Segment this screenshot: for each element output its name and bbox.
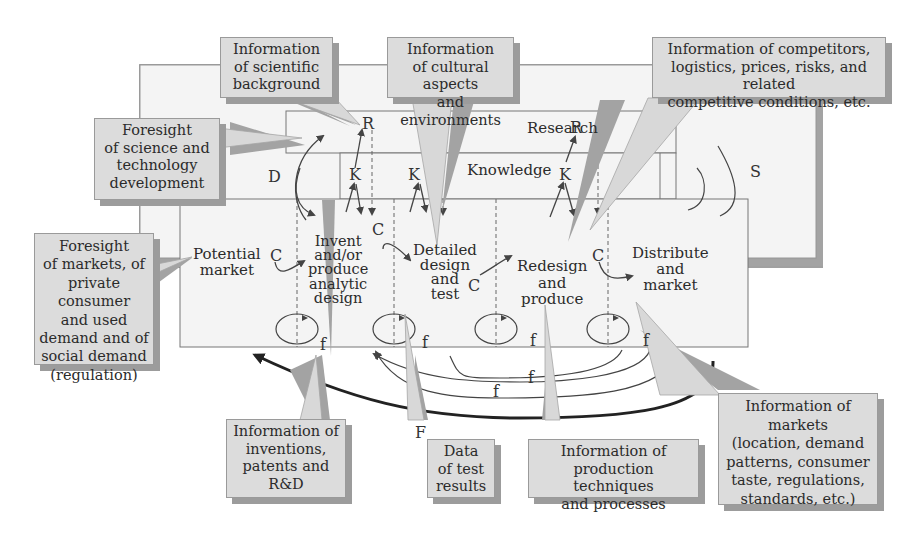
f-symbol-3: f: [530, 331, 536, 350]
f-symbol-4: f: [643, 331, 649, 350]
callout-test-results: Dataof testresults: [427, 439, 495, 498]
callout-production-techniques: Information ofproduction techniquesand p…: [528, 439, 699, 498]
f-symbol-5: f: [528, 368, 534, 387]
c-symbol-1: C: [372, 220, 384, 239]
stage-detailed-design: Detaileddesignandtest: [413, 243, 477, 302]
d-label: D: [268, 167, 281, 186]
f-symbol-1: f: [320, 335, 326, 354]
s-label: S: [750, 162, 761, 181]
callout-foresight-markets: Foresightof markets, ofprivate consumera…: [34, 233, 154, 365]
stage-invent: Inventand/orproduceanalyticdesign: [308, 234, 368, 305]
callout-foresight-science: Foresightof science andtechnologydevelop…: [94, 118, 220, 200]
callout-scientific-background: Informationof scientificbackground: [220, 37, 333, 98]
r-symbol-1: R: [362, 114, 374, 133]
callout-cultural-aspects: Informationof cultural aspectsand enviro…: [387, 37, 514, 98]
callout-competitors: Information of competitors,logistics, pr…: [652, 37, 886, 98]
stage-redesign: Redesignandproduce: [517, 258, 587, 308]
callout-inventions-patents: Information ofinventions,patents and R&D: [226, 419, 346, 498]
f-symbol-6: f: [493, 382, 499, 401]
big-f-label: F: [415, 423, 426, 442]
research-label: Research: [527, 121, 598, 137]
innovation-diagram: Research Knowledge D S F R R K K K C C C…: [0, 0, 922, 536]
f-symbol-2: f: [422, 333, 428, 352]
k-symbol-3: K: [559, 165, 571, 184]
k-symbol-2: K: [408, 165, 420, 184]
callout-markets-info: Information of markets(location, demandp…: [718, 393, 878, 505]
c-symbol-4: C: [592, 246, 604, 265]
knowledge-label: Knowledge: [467, 163, 552, 179]
c-symbol-2: C: [270, 246, 282, 265]
stage-potential-market: Potentialmarket: [193, 247, 261, 279]
k-symbol-1: K: [349, 165, 361, 184]
r-symbol-2: R: [570, 118, 582, 137]
stage-distribute: Distributeandmarket: [632, 246, 709, 293]
